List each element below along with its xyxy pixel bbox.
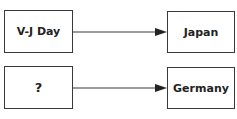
arrows	[0, 0, 237, 119]
arrow-top	[73, 28, 167, 36]
arrow-bottom	[73, 84, 167, 92]
